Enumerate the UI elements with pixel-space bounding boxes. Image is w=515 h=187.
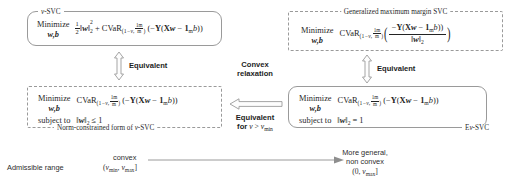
axis-right-line1: More general, (342, 148, 388, 157)
box-nu-svc: ν-SVC Minimizew,b 12‖w‖22 + CVaR(1 − ν, … (27, 11, 222, 46)
convex-relaxation-label: Convex relaxation (225, 60, 285, 79)
axis-convex-label: convex (113, 153, 136, 162)
box-norm-constrained-nu-svc: Norm-constrained form of ν-SVC Minimizew… (27, 86, 222, 128)
admissible-range-label: Admissible range (7, 163, 64, 172)
axis-right-line2: non convex (346, 157, 384, 166)
axis-arrow-icon (148, 155, 345, 165)
norm-constrained-constraint: ‖w‖2 ≤ 1 (76, 116, 102, 126)
convex-relaxation-arrow-icon (230, 98, 282, 110)
enu-svc-objective: CVaR(1 − ν, 1mm) (−Y(Xw − 1mb)) (338, 94, 439, 107)
norm-constrained-subject-to: subject to (38, 116, 70, 126)
nu-svc-objective: 12‖w‖22 + CVaR(1 − ν, 1mm) (−Y(Xw − 1mb)… (75, 20, 203, 36)
axis-right-caption: More general, non convex (317, 148, 413, 166)
convex-relaxation-line1: Convex (241, 60, 268, 69)
gen-max-margin-minimize: Minimizew,b (301, 23, 334, 47)
box-nu-svc-label: ν-SVC (38, 8, 64, 16)
norm-constrained-minimize: Minimizew,b (38, 94, 71, 115)
gen-max-margin-body: Minimizew,b CVaR(1 − ν, 1mm)(−Y(Xw − 1mb… (301, 23, 452, 47)
axis-left-interval: (νmin, νmax] (103, 163, 137, 175)
box-enu-svc-label: Eν-SVC (462, 124, 492, 132)
equivalent-for-line1: Equivalent (236, 113, 274, 122)
right-equivalent-arrow-icon (360, 55, 374, 83)
box-enu-svc: Eν-SVC Minimizew,b CVaR(1 − ν, 1mm) (−Y(… (288, 86, 487, 128)
enu-svc-constraint: ‖w‖2 = 1 (337, 116, 363, 126)
right-equivalent-label: Equivalent (377, 64, 415, 73)
axis-right-interval: (0, νmax] (317, 167, 413, 179)
enu-svc-subject-to: subject to (299, 116, 331, 126)
left-equivalent-label: Equivalent (129, 61, 167, 70)
enu-svc-body: Minimizew,b CVaR(1 − ν, 1mm) (−Y(Xw − 1m… (299, 94, 438, 126)
equivalent-for-label: Equivalent for ν > νmin (219, 113, 291, 132)
box-generalized-max-margin-svc: Generalized maximum margin SVC Minimizew… (288, 11, 503, 51)
equivalent-for-line2: for ν > νmin (237, 122, 273, 131)
box-nu-svc-body: Minimizew,b 12‖w‖22 + CVaR(1 − ν, 1mm) (… (37, 20, 203, 41)
nu-svc-minimize: Minimizew,b (37, 20, 70, 41)
enu-svc-minimize: Minimizew,b (299, 94, 332, 115)
left-equivalent-arrow-icon (112, 52, 126, 80)
diagram-canvas: ν-SVC Minimizew,b 12‖w‖22 + CVaR(1 − ν, … (0, 0, 515, 187)
gen-max-margin-objective: CVaR(1 − ν, 1mm)(−Y(Xw − 1mb))‖w‖2) (340, 23, 452, 45)
box-generalized-max-margin-svc-label: Generalized maximum margin SVC (341, 8, 450, 16)
norm-constrained-body: Minimizew,b CVaR(1 − ν, 1mm) (−Y(Xw − 1m… (38, 94, 177, 126)
norm-constrained-objective: CVaR(1 − ν, 1mm) (−Y(Xw − 1mb)) (77, 94, 178, 107)
convex-relaxation-line2: relaxation (237, 69, 273, 78)
